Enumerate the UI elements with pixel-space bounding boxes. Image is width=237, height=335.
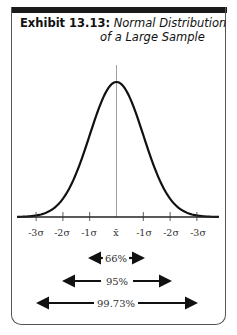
interval-95: 95%	[104, 276, 130, 287]
tick-label-neg1: -1σ	[81, 227, 97, 238]
tick-label-pos3: -3σ	[190, 227, 206, 238]
tick-label-pos1: -1σ	[136, 227, 152, 238]
bell-curve	[17, 82, 219, 217]
tick-label-pos2: -2σ	[163, 227, 179, 238]
interval-66: 66%	[103, 253, 129, 264]
tick-label-mean: x̄	[113, 227, 118, 238]
tick-label-neg3: -3σ	[28, 227, 44, 238]
tick-label-neg2: -2σ	[54, 227, 70, 238]
interval-9973: 99.73%	[95, 298, 137, 309]
